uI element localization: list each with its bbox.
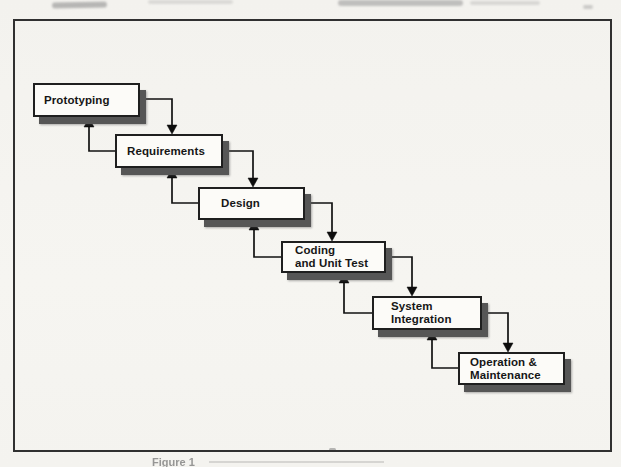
- scan-smudge: [583, 5, 593, 9]
- flow-box-requirements: Requirements: [115, 134, 223, 168]
- flow-box-label-line1: System: [391, 300, 480, 313]
- figure-caption-text: Figure 1: [152, 456, 195, 467]
- flow-box-label-line2: Integration: [391, 313, 480, 326]
- flow-box-prototyping: Prototyping: [33, 83, 140, 117]
- flow-box-label-line2: and Unit Test: [295, 257, 384, 270]
- flow-box-design: Design: [198, 187, 305, 220]
- scan-smudge: [52, 2, 107, 9]
- flow-box-label-line1: Coding: [295, 244, 384, 257]
- illegible-caption-smear: [209, 461, 384, 463]
- flow-box-system-integration: System Integration: [372, 296, 482, 330]
- flow-box-label-line2: Maintenance: [470, 369, 563, 382]
- scan-smudge: [338, 0, 463, 6]
- flow-box-operation-maintenance: Operation & Maintenance: [458, 352, 565, 385]
- flow-box-label: Requirements: [127, 145, 221, 158]
- flow-box-label: Design: [221, 197, 303, 210]
- flow-box-label-line1: Operation &: [470, 356, 563, 369]
- scan-smudge: [470, 1, 540, 5]
- scanned-page: Prototyping Requirements Design Coding a…: [0, 0, 621, 467]
- scan-smudge: [148, 0, 233, 4]
- flow-box-label: Prototyping: [44, 94, 138, 107]
- figure-caption: Figure 1: [152, 456, 384, 467]
- flow-box-coding-and-unit-test: Coding and Unit Test: [281, 241, 386, 273]
